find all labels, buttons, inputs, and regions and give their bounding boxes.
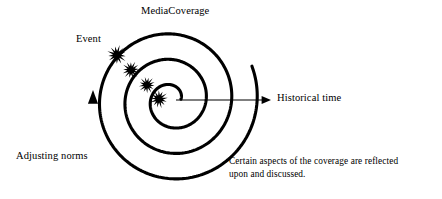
event-marker-1 xyxy=(107,45,125,64)
reflection-caption-line-1: Certain aspects of the coverage are refl… xyxy=(229,155,434,168)
spiral-diagram-figure: MediaCoverage Event Historical time Adju… xyxy=(0,0,442,199)
adjusting-norms-label: Adjusting norms xyxy=(16,150,88,163)
historical-time-label: Historical time xyxy=(277,92,341,105)
adjusting-norms-arrowhead-icon xyxy=(88,90,98,104)
historical-time-arrowhead-icon xyxy=(262,96,271,104)
reflection-caption-line-2: upon and discussed. xyxy=(229,168,434,181)
event-marker-2 xyxy=(123,62,139,79)
event-marker-3 xyxy=(139,77,155,93)
diagram-title: MediaCoverage xyxy=(141,5,209,18)
event-label: Event xyxy=(76,33,101,46)
reflection-caption: Certain aspects of the coverage are refl… xyxy=(229,155,434,180)
event-markers-group xyxy=(107,45,167,108)
